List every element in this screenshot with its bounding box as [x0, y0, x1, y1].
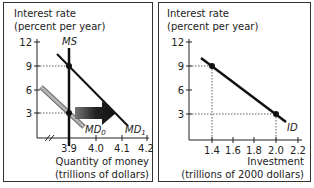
x-tick-1-4: 1.4 — [204, 145, 220, 156]
y-axis-label-line1: Interest rate — [14, 8, 76, 19]
x-axis-label-line2: (trillions of 2000 dollars) — [181, 169, 304, 180]
x-axis-label-line1: Quantity of money — [56, 156, 150, 167]
y-axis-label-line2: (percent per year) — [14, 21, 105, 32]
x-tick-4-1: 4.1 — [114, 143, 130, 154]
y-tick-12: 12 — [171, 37, 184, 48]
y-tick-12: 12 — [19, 37, 32, 48]
investment-demand-panel: Interest rate (percent per year) 12 9 6 … — [158, 2, 311, 182]
y-axis-label-line1: Interest rate — [167, 8, 229, 19]
x-axis-label-line2: (trillions of dollars) — [55, 169, 149, 180]
ms-label: MS — [62, 36, 78, 47]
x-tick-1-6: 1.6 — [225, 145, 241, 156]
x-axis-label-line1: Investment — [247, 156, 304, 167]
x-tick-4-2: 4.2 — [138, 143, 154, 154]
y-tick-6: 6 — [178, 85, 184, 96]
md1-label: MD1 — [125, 124, 146, 137]
id-label: ID — [287, 122, 298, 133]
money-market-panel: Interest rate (percent per year) 12 9 6 … — [3, 2, 153, 182]
y-tick-9: 9 — [26, 61, 32, 72]
y-axis-label-line2: (percent per year) — [167, 21, 258, 32]
equilibrium-point-initial — [66, 110, 72, 116]
y-tick-9: 9 — [178, 61, 184, 72]
point-2-0-3 — [273, 111, 279, 117]
y-tick-3: 3 — [26, 108, 32, 119]
equilibrium-point-new — [66, 63, 72, 69]
y-tick-6: 6 — [26, 85, 32, 96]
x-tick-2-0: 2.0 — [268, 145, 284, 156]
point-1-4-9 — [209, 63, 215, 69]
investment-demand-chart: Interest rate (percent per year) 12 9 6 … — [159, 3, 312, 183]
dotted-guides — [189, 66, 276, 140]
money-market-chart: Interest rate (percent per year) 12 9 6 … — [4, 3, 154, 183]
x-tick-4-0: 4.0 — [88, 143, 104, 154]
x-tick-2-2: 2.2 — [290, 145, 306, 156]
y-tick-3: 3 — [178, 109, 184, 120]
x-tick-1-8: 1.8 — [246, 145, 262, 156]
